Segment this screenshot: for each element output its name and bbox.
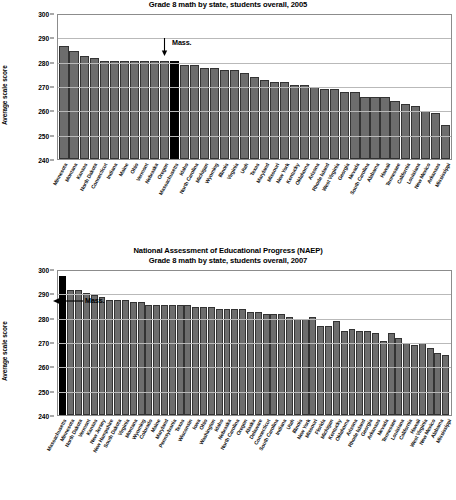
bar	[150, 61, 159, 159]
x-label-cell: Wisconsin	[184, 418, 192, 500]
bar	[106, 300, 113, 415]
bar	[160, 61, 169, 159]
y-tick-label: 260	[38, 364, 49, 371]
y-tick-mark	[50, 343, 54, 344]
bar	[380, 97, 389, 159]
bar	[99, 297, 106, 415]
y-tick-mark	[50, 416, 54, 417]
x-label-cell: Virginia	[229, 162, 239, 248]
plot-canvas-2007	[57, 270, 452, 416]
y-tick-mark	[50, 391, 54, 392]
bar	[372, 333, 379, 415]
y-tick-label: 290	[38, 35, 49, 42]
arrow-down-icon	[161, 38, 168, 56]
chart-title-2007: National Assessment of Educational Progr…	[0, 246, 456, 266]
y-tick-label: 270	[38, 340, 49, 347]
bar	[278, 314, 285, 415]
y-tick-mark	[50, 87, 54, 88]
bar	[130, 61, 139, 159]
bar	[350, 92, 359, 159]
bar	[169, 305, 176, 415]
y-tick-mark	[50, 14, 54, 15]
gridline	[58, 319, 451, 320]
x-label-cell: Utah	[239, 162, 249, 248]
chart-figure-2005: National Assessment of Educational Progr…	[0, 0, 456, 240]
bar	[80, 56, 89, 159]
bar	[349, 329, 356, 415]
bar	[239, 309, 246, 415]
bar	[184, 305, 191, 415]
gridline	[58, 294, 451, 295]
bar	[280, 82, 289, 159]
x-label-cell: Iowa	[192, 418, 200, 500]
bar	[90, 58, 99, 159]
gridline	[58, 343, 451, 344]
bar	[75, 290, 82, 415]
massachusetts-annotation-2005: Mass.	[172, 38, 191, 47]
plot-area-2005: Average scale score 24025026027028029030…	[0, 14, 456, 164]
bar	[411, 345, 418, 415]
y-tick-mark	[50, 294, 54, 295]
bar	[388, 333, 395, 415]
bar	[192, 307, 199, 415]
bar	[69, 51, 78, 159]
naep-chart-page: National Assessment of Educational Progr…	[0, 0, 456, 500]
bar	[140, 61, 149, 159]
bar	[395, 338, 402, 415]
bar	[100, 61, 109, 159]
x-tick-label: Maine	[117, 162, 129, 177]
massachusetts-annotation-2007: Mass.	[85, 296, 104, 305]
y-tick-label: 240	[38, 413, 49, 420]
y-tick-label: 260	[38, 108, 49, 115]
y-tick-mark	[50, 111, 54, 112]
bar	[290, 85, 299, 159]
y-tick-mark	[50, 62, 54, 63]
y-tick-mark	[50, 270, 54, 271]
y-tick-label: 250	[38, 132, 49, 139]
bar	[200, 307, 207, 415]
bar	[434, 353, 441, 415]
plot-canvas-2005	[57, 14, 452, 160]
y-axis-2005: 240250260270280290300	[16, 14, 54, 160]
y-tick-mark	[50, 38, 54, 39]
arrow-left-icon	[53, 297, 83, 305]
bar	[403, 343, 410, 415]
bar	[263, 314, 270, 415]
bar	[320, 89, 329, 159]
bar	[200, 68, 209, 159]
x-label-cell: Maine	[118, 162, 128, 248]
bar	[83, 293, 90, 415]
bar	[255, 312, 262, 415]
x-axis-labels-2005: MinnesotaMontanaKansasNorth DakotaConnec…	[57, 162, 452, 248]
bar	[309, 317, 316, 415]
bar	[67, 290, 74, 415]
y-tick-label: 300	[38, 11, 49, 18]
gridline	[58, 136, 451, 137]
gridline	[58, 38, 451, 39]
gridline	[58, 367, 451, 368]
chart-figure-2007: National Assessment of Educational Progr…	[0, 246, 456, 500]
gridline	[58, 87, 451, 88]
y-tick-label: 280	[38, 59, 49, 66]
y-tick-label: 290	[38, 291, 49, 298]
bar	[216, 309, 223, 415]
y-tick-label: 270	[38, 84, 49, 91]
bar	[247, 312, 254, 415]
bar	[260, 80, 269, 159]
bar	[114, 300, 121, 415]
gridline	[58, 392, 451, 393]
x-label-cell: Indiana	[108, 162, 118, 248]
bar	[270, 314, 277, 415]
y-axis-label: Average scale score	[1, 296, 13, 406]
y-tick-mark	[50, 135, 54, 136]
bar	[270, 82, 279, 159]
y-axis-2007: 240250260270280290300	[16, 270, 54, 416]
y-tick-label: 240	[38, 157, 49, 164]
gridline	[58, 63, 451, 64]
chart-title-line1: National Assessment of Educational Progr…	[0, 246, 456, 256]
bar	[419, 343, 426, 415]
x-label-cell: Indiana	[278, 418, 286, 500]
bar	[177, 305, 184, 415]
bar	[442, 355, 449, 415]
bar	[250, 77, 259, 159]
